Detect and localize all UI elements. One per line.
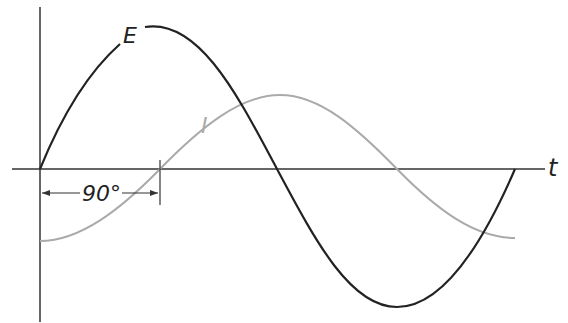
arrowhead-right-icon [150, 190, 158, 196]
current-label: I [201, 113, 208, 138]
phase-diagram: 90° E I t [0, 0, 568, 323]
voltage-curve-upper [145, 26, 515, 307]
voltage-label: E [123, 23, 137, 48]
voltage-curve [40, 44, 120, 169]
arrowhead-left-icon [42, 190, 50, 196]
phase-shift-label: 90° [82, 181, 121, 206]
time-axis-label: t [548, 154, 559, 182]
